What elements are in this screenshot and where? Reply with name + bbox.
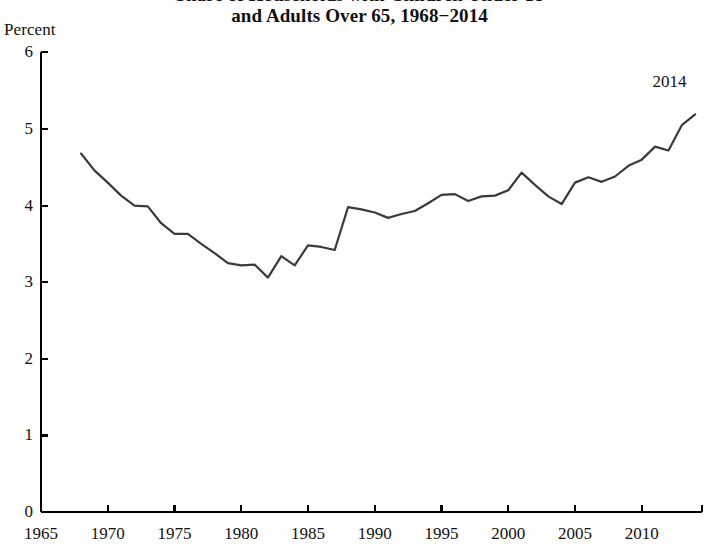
y-tick-label: 1 [5,425,33,445]
y-tick-label: 3 [5,272,33,292]
plot-area [0,0,719,555]
x-tick-label: 2000 [478,524,538,544]
series-line [81,114,695,277]
x-tick-label: 1970 [78,524,138,544]
x-tick-label: 2010 [612,524,672,544]
y-tick-label: 4 [5,196,33,216]
y-tick-label: 5 [5,119,33,139]
axes [41,52,702,512]
annotation-year-label: 2014 [652,72,686,92]
y-tick-label: 2 [5,349,33,369]
chart-container: Share of Households with Children Under … [0,0,719,555]
x-tick-label: 1990 [345,524,405,544]
x-tick-label: 1975 [145,524,205,544]
x-tick-label: 2005 [545,524,605,544]
data-series [81,114,695,277]
x-tick-label: 1965 [11,524,71,544]
x-tick-label: 1985 [278,524,338,544]
x-tick-label: 1995 [412,524,472,544]
x-tick-label: 1980 [211,524,271,544]
y-tick-label: 6 [5,42,33,62]
y-tick-label: 0 [5,502,33,522]
